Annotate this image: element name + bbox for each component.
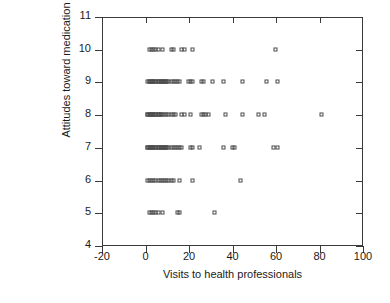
x-axis-tick-top: [320, 17, 321, 23]
data-point: [239, 178, 243, 182]
data-point: [223, 113, 227, 117]
y-axis-tick-right: [356, 246, 363, 247]
data-point: [210, 80, 214, 84]
data-point: [241, 80, 245, 84]
data-point: [182, 47, 186, 51]
y-axis-label: Attitudes toward medication: [60, 0, 72, 145]
data-point: [232, 145, 236, 149]
x-axis-tick-top: [233, 17, 234, 23]
data-point: [160, 47, 164, 51]
y-axis-tick-right: [356, 50, 363, 51]
data-point: [274, 47, 278, 51]
data-point: [221, 145, 225, 149]
y-axis-tick: [95, 246, 102, 247]
x-axis-tick-top: [189, 17, 190, 23]
data-point: [241, 113, 245, 117]
data-point: [276, 145, 280, 149]
data-point: [178, 80, 182, 84]
data-point: [182, 113, 186, 117]
y-axis-tick: [95, 50, 102, 51]
data-point: [173, 113, 177, 117]
y-axis-tick: [95, 115, 102, 116]
data-point: [191, 47, 195, 51]
y-axis-tick: [95, 82, 102, 83]
data-point: [191, 145, 195, 149]
data-point: [171, 47, 175, 51]
y-axis-tick-right: [356, 17, 363, 18]
data-point: [191, 80, 195, 84]
x-axis-label: Visits to health professionals: [102, 268, 363, 280]
data-point: [197, 145, 201, 149]
y-axis-tick: [95, 148, 102, 149]
data-point: [263, 113, 267, 117]
y-axis-tick: [95, 213, 102, 214]
data-point: [202, 80, 206, 84]
y-axis-tick-right: [356, 181, 363, 182]
data-point: [180, 145, 184, 149]
y-axis-tick-right: [356, 213, 363, 214]
data-point: [265, 80, 269, 84]
data-point: [319, 113, 323, 117]
data-point: [160, 211, 164, 215]
data-point: [256, 113, 260, 117]
data-point: [221, 80, 225, 84]
y-axis-tick: [95, 181, 102, 182]
y-axis-tick: [95, 17, 102, 18]
x-axis-tick-top: [276, 17, 277, 23]
data-point: [213, 211, 217, 215]
data-point: [191, 178, 195, 182]
x-axis-tick-top: [146, 17, 147, 23]
y-axis-tick-right: [356, 148, 363, 149]
y-axis-tick-right: [356, 82, 363, 83]
scatter-plot-figure: Attitudes toward medication Visits to he…: [0, 0, 390, 303]
data-point: [178, 178, 182, 182]
data-point: [206, 113, 210, 117]
data-point: [178, 211, 182, 215]
data-point: [171, 178, 175, 182]
plot-data-area: [102, 17, 363, 246]
data-point: [276, 80, 280, 84]
data-point: [189, 113, 193, 117]
y-axis-tick-right: [356, 115, 363, 116]
